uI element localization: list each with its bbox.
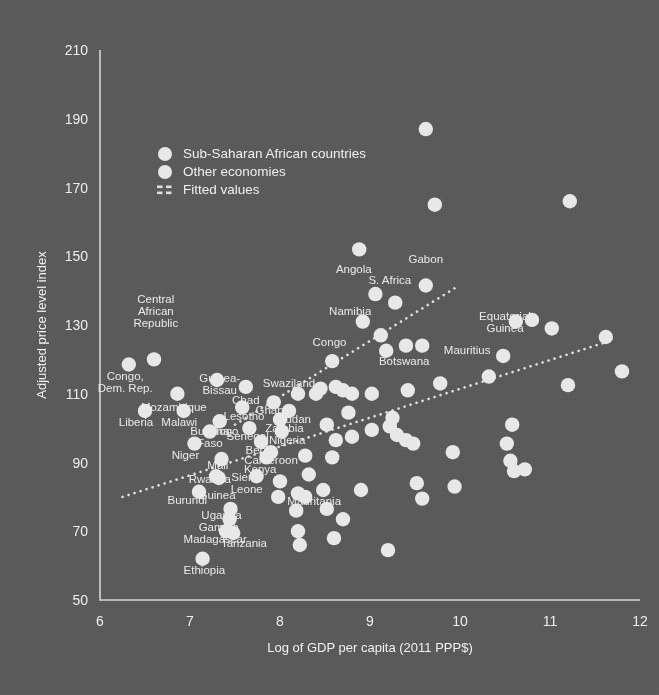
data-point[interactable] (381, 543, 395, 557)
data-point[interactable] (352, 242, 366, 256)
data-point[interactable] (368, 287, 382, 301)
data-point[interactable] (313, 381, 327, 395)
y-tick-label: 190 (65, 111, 89, 127)
x-tick-label: 9 (366, 613, 374, 629)
data-point[interactable] (298, 448, 312, 462)
legend-marker-dotted-top (166, 186, 172, 189)
data-point[interactable] (271, 490, 285, 504)
legend-marker-dotted-top (157, 186, 163, 189)
data-point[interactable] (325, 354, 339, 368)
data-point[interactable] (561, 378, 575, 392)
data-point[interactable] (428, 197, 442, 211)
point-label: Republic (133, 317, 178, 329)
data-point[interactable] (410, 476, 424, 490)
point-label: Tanzania (221, 537, 268, 549)
point-label: Ethiopia (184, 564, 226, 576)
data-point[interactable] (505, 417, 519, 431)
point-label: Faso (197, 437, 223, 449)
data-point[interactable] (433, 376, 447, 390)
point-label: Botswana (379, 355, 430, 367)
point-label: Congo, (107, 370, 144, 382)
data-point[interactable] (415, 491, 429, 505)
data-point[interactable] (170, 387, 184, 401)
data-point[interactable] (336, 512, 350, 526)
data-point[interactable] (447, 479, 461, 493)
point-label: Sudan (278, 413, 311, 425)
point-label: Gambia (199, 521, 240, 533)
axis-lines (100, 50, 640, 600)
legend-marker-dotted-bottom (166, 192, 172, 195)
point-label: Liberia (119, 416, 154, 428)
point-label: Central (137, 293, 174, 305)
x-tick-label: 12 (632, 613, 648, 629)
data-point[interactable] (320, 417, 334, 431)
point-label: Leone (231, 483, 263, 495)
data-point[interactable] (399, 338, 413, 352)
data-point[interactable] (496, 349, 510, 363)
y-tick-label: 110 (66, 386, 89, 402)
point-label: Guinea- (199, 372, 240, 384)
data-point[interactable] (419, 122, 433, 136)
y-tick-label: 210 (65, 42, 89, 58)
data-point[interactable] (345, 430, 359, 444)
x-tick-label: 6 (96, 613, 104, 629)
data-point[interactable] (518, 462, 532, 476)
x-tick-label: 10 (452, 613, 468, 629)
data-point[interactable] (147, 352, 161, 366)
legend-marker-circle (158, 165, 172, 179)
data-point[interactable] (345, 387, 359, 401)
legend-label: Sub-Saharan African countries (183, 146, 366, 161)
point-label: Namibia (329, 305, 372, 317)
data-point[interactable] (273, 474, 287, 488)
data-point[interactable] (615, 364, 629, 378)
data-point[interactable] (341, 405, 355, 419)
scatter-plot-svg: 5070901101301501701902106789101112Adjust… (0, 0, 659, 695)
point-label: Guinea (486, 322, 524, 334)
data-point[interactable] (500, 436, 514, 450)
point-label: Rwanda (189, 473, 232, 485)
legend-marker-circle (158, 147, 172, 161)
point-label: Angola (336, 263, 372, 275)
data-point[interactable] (293, 538, 307, 552)
data-point[interactable] (329, 433, 343, 447)
y-tick-label: 70 (72, 523, 88, 539)
data-point[interactable] (302, 467, 316, 481)
data-point[interactable] (401, 383, 415, 397)
data-point[interactable] (365, 423, 379, 437)
x-axis-title: Log of GDP per capita (2011 PPP$) (267, 640, 472, 655)
point-label: S. Africa (368, 274, 411, 286)
legend-label: Fitted values (183, 182, 260, 197)
point-label: Cameroon (244, 454, 298, 466)
data-point[interactable] (446, 445, 460, 459)
point-label: Equatorial (479, 310, 531, 322)
data-point[interactable] (545, 321, 559, 335)
x-tick-label: 8 (276, 613, 284, 629)
point-label: Uganda (201, 509, 242, 521)
point-label: Mauritius (444, 344, 491, 356)
data-point[interactable] (354, 483, 368, 497)
legend-label: Other economies (183, 164, 286, 179)
point-label: Mozambique (141, 401, 207, 413)
data-point[interactable] (325, 450, 339, 464)
point-label: Congo (313, 336, 347, 348)
data-point[interactable] (406, 436, 420, 450)
data-point[interactable] (239, 380, 253, 394)
data-point[interactable] (327, 531, 341, 545)
y-tick-label: 50 (72, 592, 88, 608)
x-tick-label: 11 (543, 613, 558, 629)
point-label: Dem. Rep. (98, 382, 153, 394)
data-point[interactable] (482, 369, 496, 383)
data-point[interactable] (365, 387, 379, 401)
data-point[interactable] (374, 328, 388, 342)
data-point[interactable] (388, 295, 402, 309)
point-label: Swaziland (263, 377, 315, 389)
point-label: Nigeria (269, 434, 306, 446)
data-point[interactable] (563, 194, 577, 208)
data-point[interactable] (415, 338, 429, 352)
data-point[interactable] (599, 330, 613, 344)
x-tick-label: 7 (186, 613, 194, 629)
point-label: Niger (172, 449, 200, 461)
data-point[interactable] (419, 278, 433, 292)
point-label: Gabon (409, 253, 444, 265)
data-point[interactable] (291, 524, 305, 538)
